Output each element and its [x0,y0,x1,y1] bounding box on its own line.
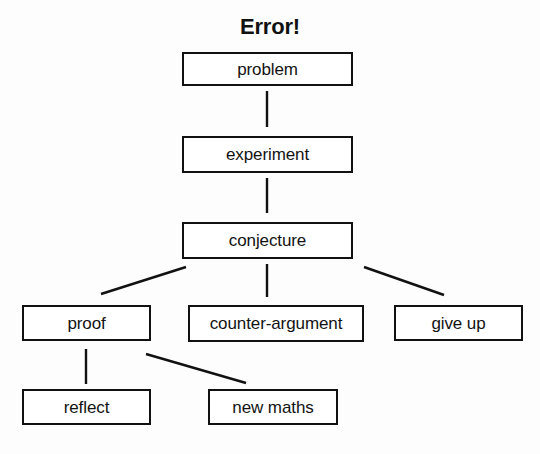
node-label: proof [67,314,105,331]
node-label: conjecture [229,232,306,249]
node-give-up[interactable]: give up [394,305,523,341]
node-label: problem [237,60,298,77]
node-label: new maths [232,398,313,415]
node-conjecture[interactable]: conjecture [182,222,353,259]
node-label: experiment [226,146,309,163]
connector-conjecture-to-proof [101,267,186,294]
node-label: reflect [64,398,110,415]
node-proof[interactable]: proof [22,305,151,341]
node-label: counter-argument [210,315,343,332]
connector-proof-to-new-maths [146,354,246,383]
connector-conjecture-to-give-up [364,267,444,295]
node-experiment[interactable]: experiment [182,136,353,173]
node-new-maths[interactable]: new maths [208,389,338,425]
node-counter-argument[interactable]: counter-argument [188,305,364,342]
node-label: give up [431,314,485,331]
diagram-canvas: Error! problemexperimentconjectureproofc… [0,0,540,454]
page-title: Error! [0,14,540,40]
node-problem[interactable]: problem [182,52,353,86]
node-reflect[interactable]: reflect [22,389,151,425]
